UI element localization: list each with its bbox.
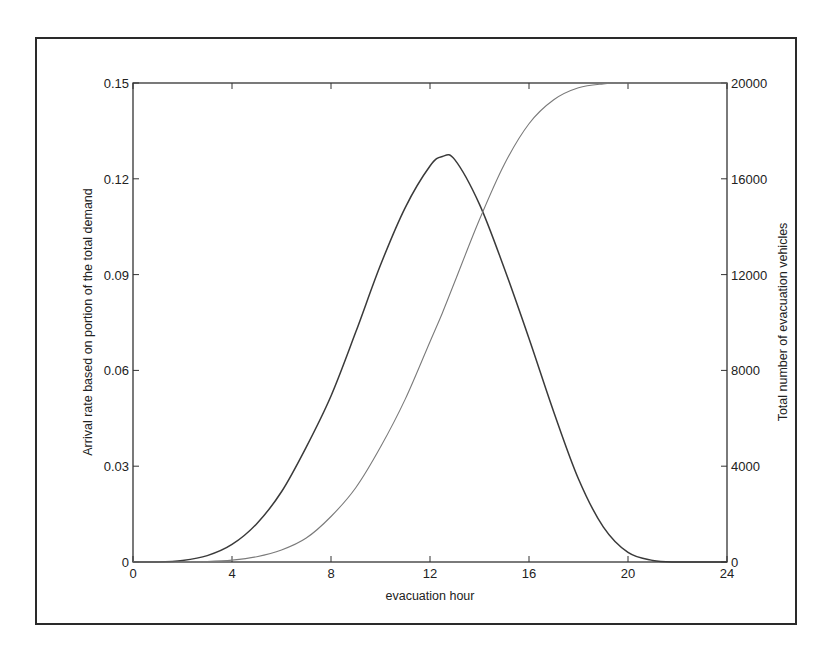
y-tick-label-left: 0.06 [104,363,129,378]
y-tick-label-right: 4000 [731,459,760,474]
y-tick-label-right: 12000 [731,268,767,283]
y-tick-label-left: 0.12 [104,172,129,187]
x-axis-title: evacuation hour [386,589,475,603]
y-tick-label-left: 0.09 [104,268,129,283]
y-tick-label-left: 0.15 [104,76,129,91]
y-tick-label-right: 20000 [731,76,767,91]
arrival-rate-line [133,155,727,562]
chart: 0481216202400.030.060.090.120.1504000800… [0,0,829,657]
y-tick-label-right: 8000 [731,363,760,378]
curves [133,83,727,562]
y-tick-label-right: 16000 [731,172,767,187]
y-axis-title-left: Arrival rate based on portion of the tot… [81,188,95,456]
x-tick-label: 0 [129,566,136,581]
x-tick-label: 16 [522,566,536,581]
x-tick-label: 20 [621,566,635,581]
x-tick-label: 12 [423,566,437,581]
plot-area [133,83,727,562]
x-tick-label: 4 [228,566,235,581]
x-tick-label: 8 [327,566,334,581]
y-tick-label-left: 0.03 [104,459,129,474]
axes [133,83,727,562]
y-tick-label-left: 0 [122,555,129,570]
cumulative-vehicles-line [133,83,727,562]
y-tick-label-right: 0 [731,555,738,570]
y-axis-title-right: Total number of evacuation vehicles [776,223,790,422]
